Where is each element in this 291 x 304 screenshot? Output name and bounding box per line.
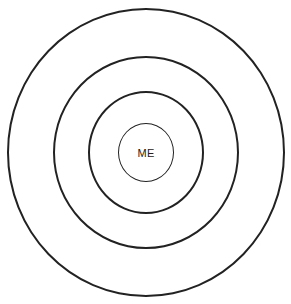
center-label: ME	[118, 123, 174, 182]
